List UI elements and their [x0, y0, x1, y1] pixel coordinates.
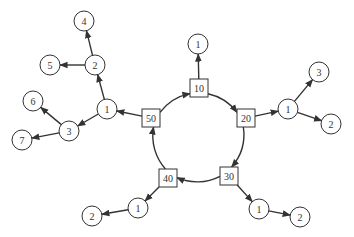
tree-edge [145, 187, 159, 201]
ring-edge-30-40 [177, 176, 220, 182]
ring-node-50: 50 [142, 109, 160, 127]
tree-node: 6 [23, 91, 43, 111]
tree-node: 1 [278, 99, 298, 119]
tree-node: 3 [59, 121, 79, 141]
ring-node-20: 20 [237, 109, 255, 127]
node-label: 7 [20, 135, 25, 146]
node-label: 20 [241, 113, 251, 124]
node-label: 1 [286, 104, 291, 115]
node-label: 2 [90, 211, 95, 222]
node-label: 6 [31, 96, 36, 107]
tree-node: 2 [321, 114, 341, 134]
ring-node-10: 10 [190, 79, 208, 97]
tree-node: 1 [97, 99, 117, 119]
node-label: 50 [146, 113, 156, 124]
node-label: 1 [105, 104, 110, 115]
ring-node-40: 40 [159, 169, 177, 187]
tree-node: 7 [12, 130, 32, 150]
tree-node: 2 [85, 55, 105, 75]
node-label: 40 [163, 173, 173, 184]
tree-edge [98, 75, 105, 100]
ring-edge-50-10 [160, 94, 190, 113]
tree-edge [294, 80, 312, 102]
tree-node: 1 [128, 198, 148, 218]
node-label: 2 [329, 119, 334, 130]
tree-edge [237, 185, 252, 202]
tree-node: 4 [74, 11, 94, 31]
tree-node: 5 [40, 55, 60, 75]
tree-edge [86, 31, 92, 56]
node-label: 1 [196, 39, 201, 50]
node-label: 30 [224, 171, 234, 182]
tree-node: 2 [82, 206, 102, 226]
node-label: 5 [48, 60, 53, 71]
tree-edge [32, 133, 59, 138]
tree-node: 2 [290, 207, 310, 227]
tree-node: 1 [249, 199, 269, 219]
tree-edge [269, 211, 290, 215]
tree-edge [41, 107, 62, 124]
nodes-layer: 1020304050113212121245367 [12, 11, 341, 227]
node-label: 2 [93, 60, 98, 71]
node-label: 1 [136, 203, 141, 214]
node-label: 3 [67, 126, 72, 137]
node-label: 3 [317, 67, 322, 78]
tree-node: 1 [188, 34, 208, 54]
node-label: 10 [194, 83, 204, 94]
ring-edge-40-50 [153, 127, 166, 169]
ring-node-30: 30 [220, 167, 238, 185]
node-label: 4 [82, 16, 87, 27]
ring-edge-20-30 [232, 127, 244, 167]
diagram-canvas: 1020304050113212121245367 [0, 0, 354, 237]
tree-node: 3 [309, 62, 329, 82]
tree-edge [78, 114, 99, 126]
node-label: 1 [257, 204, 262, 215]
ring-edge-10-20 [208, 94, 237, 113]
node-label: 2 [298, 212, 303, 223]
tree-edge [297, 112, 321, 120]
tree-edge [117, 111, 142, 116]
tree-edge [102, 210, 128, 215]
tree-edge [255, 111, 278, 116]
tree-edge [198, 54, 199, 79]
